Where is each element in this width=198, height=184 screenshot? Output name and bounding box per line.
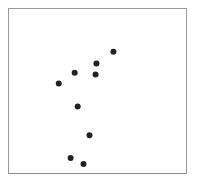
data-point — [93, 72, 99, 78]
data-point — [72, 70, 78, 76]
data-point — [93, 61, 99, 67]
scatter-points-layer — [9, 9, 186, 173]
data-point — [110, 49, 116, 55]
data-point — [68, 155, 74, 161]
data-point — [56, 81, 62, 87]
scatter-plot-area — [8, 8, 187, 174]
data-point — [87, 132, 93, 138]
data-point — [75, 103, 81, 109]
data-point — [81, 161, 87, 167]
